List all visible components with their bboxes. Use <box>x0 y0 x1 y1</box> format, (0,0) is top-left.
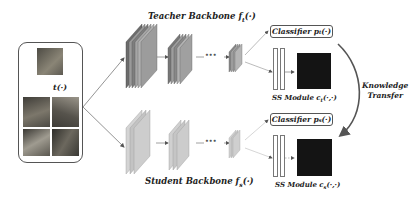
student-layer-block-2 <box>169 120 189 170</box>
student-ss-bar-2 <box>280 135 285 177</box>
student-layer-block-1 <box>126 110 150 174</box>
student-ss-module-label: SS Module cs(·,·) <box>275 180 340 190</box>
teacher-classifier-box: Classifier pt(·) <box>270 25 333 38</box>
teacher-ss-bar-1 <box>273 48 278 90</box>
teacher-ss-module-label: SS Module ct(·,·) <box>272 93 337 103</box>
teacher-similarity-matrix <box>297 53 331 89</box>
knowledge-transfer-label: Knowledge Transfer <box>362 81 408 101</box>
student-ss-bar-1 <box>273 135 278 177</box>
teacher-ss-bar-2 <box>280 48 285 90</box>
student-layer-block-3 <box>229 130 240 158</box>
student-classifier-box: Classifier ps(·) <box>270 113 333 126</box>
student-similarity-matrix <box>297 139 332 176</box>
student-backbone-title: Student Backbone fs(·) <box>145 176 254 188</box>
student-ellipsis: ••• <box>205 137 217 144</box>
student-backbone-layers <box>0 0 418 201</box>
